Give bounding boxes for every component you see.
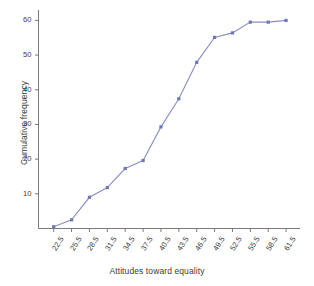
data-point-marker <box>267 21 270 24</box>
data-point-marker <box>231 31 234 34</box>
data-point-marker <box>195 61 198 64</box>
x-axis-ticks <box>54 229 286 233</box>
y-axis-ticks <box>35 20 39 193</box>
data-point-marker <box>284 19 287 22</box>
y-axis-title: Cumulative frequency <box>19 53 29 193</box>
data-point-marker <box>213 36 216 39</box>
data-point-marker <box>159 125 162 128</box>
data-markers <box>52 19 288 229</box>
data-point-marker <box>106 186 109 189</box>
y-tick-label: 60 <box>8 15 32 24</box>
cumulative-frequency-chart: 102030405060 22.525.528.531.534.537.540.… <box>0 0 314 286</box>
data-point-marker <box>249 21 252 24</box>
data-point-marker <box>124 167 127 170</box>
data-point-marker <box>52 225 55 228</box>
x-axis-title: Attitudes toward equality <box>0 266 314 276</box>
data-point-marker <box>88 196 91 199</box>
data-point-marker <box>177 97 180 100</box>
data-point-marker <box>141 159 144 162</box>
data-point-marker <box>70 218 73 221</box>
